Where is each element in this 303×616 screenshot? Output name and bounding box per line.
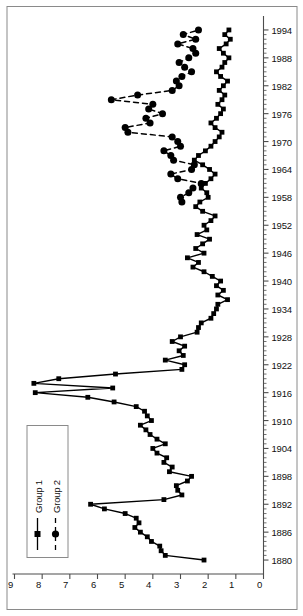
- legend-label-group-2: Group 2: [50, 480, 61, 513]
- x-axis-tick-label: 1904: [271, 443, 291, 454]
- y-axis-tick-label: 2: [186, 579, 206, 590]
- x-axis-tick-label: 1934: [271, 304, 291, 315]
- y-axis-tick-label: 9: [0, 579, 13, 590]
- x-axis-tick-label: 1892: [271, 499, 291, 510]
- x-axis-tick-label: 1964: [271, 164, 291, 175]
- legend-swatch-group-2: [49, 517, 61, 551]
- line-chart: 0123456789188018861892189819041910191619…: [0, 0, 303, 616]
- y-axis-tick-label: 1: [214, 579, 234, 590]
- x-axis-tick-label: 1982: [271, 81, 291, 92]
- x-axis-tick-label: 1916: [271, 388, 291, 399]
- chart-figure-rotator: 0123456789188018861892189819041910191619…: [0, 0, 303, 616]
- x-axis-tick-label: 1940: [271, 276, 291, 287]
- x-axis-tick-label: 1880: [271, 555, 291, 566]
- legend-entry-group-2: Group 2: [49, 480, 61, 551]
- x-axis-tick-label: 1946: [271, 248, 291, 259]
- legend-swatch-group-1: [31, 517, 43, 551]
- x-axis-tick-label: 1886: [271, 527, 291, 538]
- x-axis-tick-label: 1958: [271, 192, 291, 203]
- chart-legend: Group 1 Group 2: [26, 425, 68, 558]
- x-axis-tick-label: 1976: [271, 109, 291, 120]
- data-series-2: [107, 26, 204, 205]
- y-axis-tick-label: 6: [76, 579, 96, 590]
- legend-label-group-1: Group 1: [32, 480, 43, 513]
- x-axis-tick-label: 1952: [271, 220, 291, 231]
- y-axis-tick-label: 3: [159, 579, 179, 590]
- y-axis-tick-label: 8: [20, 579, 40, 590]
- x-axis-tick-label: 1988: [271, 53, 291, 64]
- x-axis-tick-label: 1994: [271, 25, 291, 36]
- y-axis-tick-label: 7: [48, 579, 68, 590]
- x-axis-tick-label: 1928: [271, 332, 291, 343]
- x-axis-tick-label: 1910: [271, 416, 291, 427]
- y-axis-tick-label: 4: [131, 579, 151, 590]
- x-axis-tick-label: 1922: [271, 360, 291, 371]
- x-axis-tick-label: 1970: [271, 137, 291, 148]
- legend-entry-group-1: Group 1: [31, 480, 43, 551]
- x-axis-tick-label: 1898: [271, 471, 291, 482]
- y-axis-tick-label: 0: [242, 579, 262, 590]
- y-axis-tick-label: 5: [103, 579, 123, 590]
